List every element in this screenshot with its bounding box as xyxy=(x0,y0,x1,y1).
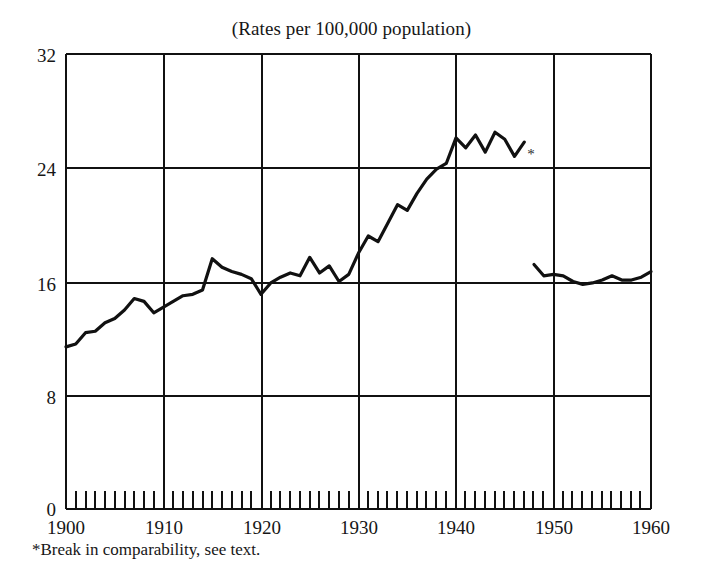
break-asterisk-marker: * xyxy=(527,146,535,162)
x-tick-label-1920: 1920 xyxy=(243,517,281,538)
x-tick-label-1930: 1930 xyxy=(340,517,378,538)
y-tick-label-32: 32 xyxy=(37,45,56,66)
x-tick-label-1940: 1940 xyxy=(437,517,475,538)
chart-plot-area: 32 24 16 8 0 1900 1910 1920 1930 1940 19… xyxy=(0,0,703,584)
x-tick-label-1910: 1910 xyxy=(145,517,183,538)
x-tick-label-1950: 1950 xyxy=(535,517,573,538)
y-tick-label-16: 16 xyxy=(37,274,56,295)
grid-lines xyxy=(66,54,651,509)
chart-footnote: *Break in comparability, see text. xyxy=(32,540,260,560)
chart-figure: (Rates per 100,000 population) xyxy=(0,0,703,584)
y-tick-label-8: 8 xyxy=(47,387,57,408)
data-line-after-break xyxy=(534,264,651,284)
x-tick-label-1960: 1960 xyxy=(632,517,670,538)
y-tick-label-24: 24 xyxy=(37,159,57,180)
x-tick-label-1900: 1900 xyxy=(47,517,85,538)
